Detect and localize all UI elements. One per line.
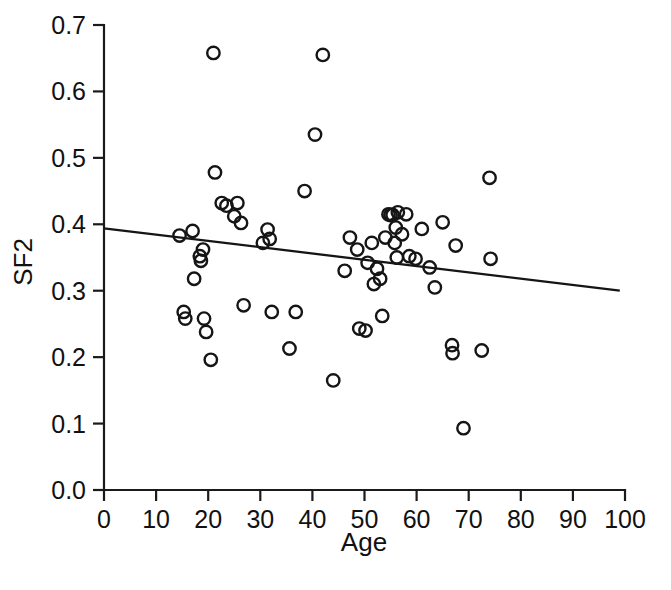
x-tick-label: 0 [97,505,111,533]
x-tick-label: 70 [455,505,483,533]
data-point-marker [205,354,217,366]
x-tick-label: 30 [246,505,274,533]
y-tick-label: 0.0 [51,476,86,504]
chart-canvas: 0.00.10.20.30.40.50.60.7 010203040506070… [0,0,671,590]
data-point-marker [436,216,448,228]
data-point-marker [446,347,458,359]
data-point-marker [327,374,339,386]
data-point-marker [376,310,388,322]
data-point-marker [200,326,212,338]
y-tick-label: 0.3 [51,277,86,305]
data-point-marker [476,344,488,356]
data-point-marker [198,312,210,324]
data-point-marker [266,306,278,318]
x-tick-label: 90 [559,505,587,533]
y-axis-title: SF2 [8,238,38,286]
data-point-marker [449,239,461,251]
y-tick-label: 0.6 [51,77,86,105]
x-tick-label: 100 [604,505,646,533]
data-point-marker [366,237,378,249]
y-tick-label: 0.2 [51,343,86,371]
x-axis-title: Age [341,527,387,557]
data-point-marker [173,229,185,241]
data-point-marker [207,47,219,59]
x-tick-label: 80 [507,505,535,533]
data-point-marker [457,422,469,434]
data-point-marker [339,265,351,277]
x-tick-label: 10 [142,505,170,533]
data-point-marker [298,185,310,197]
data-point-marker [317,49,329,61]
data-point-marker [290,306,302,318]
data-point-marker [416,223,428,235]
x-tick-label: 60 [403,505,431,533]
data-point-marker [186,225,198,237]
scatter-plot-figure: 0.00.10.20.30.40.50.60.7 010203040506070… [0,0,671,590]
y-tick-label: 0.4 [51,210,86,238]
y-tick-label: 0.1 [51,410,86,438]
data-point-marker [484,253,496,265]
data-point-marker [391,251,403,263]
y-tick-label: 0.5 [51,144,86,172]
data-point-marker [283,342,295,354]
data-point-marker [309,128,321,140]
data-point-marker [209,166,221,178]
data-point-marker [188,273,200,285]
data-point-marker [429,281,441,293]
data-point-marker [483,172,495,184]
data-point-marker [400,208,412,220]
x-tick-label: 20 [194,505,222,533]
data-points-group [173,47,496,435]
y-tick-label: 0.7 [51,11,86,39]
y-axis-ticks: 0.00.10.20.30.40.50.60.7 [51,11,104,504]
x-tick-label: 40 [298,505,326,533]
data-point-marker [344,231,356,243]
data-point-marker [237,299,249,311]
data-point-marker [351,243,363,255]
